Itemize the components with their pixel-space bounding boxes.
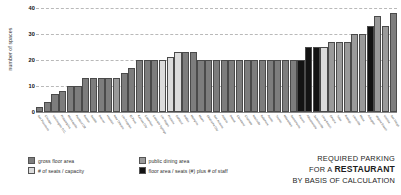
bar — [336, 42, 343, 112]
x-label: Washington D.C. — [51, 113, 58, 151]
legend-item-0: gross floor area — [28, 157, 133, 164]
legend-swatch-icon — [28, 167, 35, 174]
x-label: Wichita — [382, 113, 389, 151]
bar — [98, 78, 105, 112]
bar — [167, 57, 174, 112]
x-label: Detroit — [228, 113, 235, 151]
x-label: Columbus — [144, 113, 151, 151]
x-label: Phoenix — [167, 113, 174, 151]
x-label: San Francisco — [36, 113, 43, 151]
x-label: Charlotte — [244, 113, 251, 151]
bar — [128, 68, 135, 112]
x-label: Las Vegas — [159, 113, 166, 151]
x-label: Kansas City — [136, 113, 143, 151]
bar-series — [36, 8, 397, 112]
x-label: Arlington — [367, 113, 374, 151]
legend-label: floor area / seats (#) plus # of staff — [149, 168, 228, 174]
chart-figure: number of spaces 010203040 San Francisco… — [0, 0, 401, 195]
x-label: Virginia Beach — [374, 113, 381, 151]
bar — [82, 78, 89, 112]
x-axis-labels: San FranciscoChicagoWashington D.C.Phila… — [36, 113, 397, 151]
bar — [320, 47, 327, 112]
x-label: Long Beach — [320, 113, 327, 151]
y-tick-0: 0 — [32, 109, 35, 115]
bar — [182, 52, 189, 112]
legend-label: public dining area — [149, 158, 190, 164]
bar — [236, 60, 243, 112]
bar — [282, 60, 289, 112]
bar — [190, 52, 197, 112]
legend-label: # of seats / capacity — [38, 168, 84, 174]
y-tick-40: 40 — [28, 5, 35, 11]
x-label: Philadelphia — [59, 113, 66, 151]
bar — [367, 26, 374, 112]
x-label: Louisville — [351, 113, 358, 151]
x-label: Tulsa — [336, 113, 343, 151]
x-label: Dallas — [182, 113, 189, 151]
chart-caption: REQUIRED PARKING FOR A RESTAURANT BY BAS… — [235, 154, 395, 186]
x-label: Milwaukee — [282, 113, 289, 151]
x-label: Albuquerque — [305, 113, 312, 151]
bar — [113, 78, 120, 112]
bar — [67, 86, 74, 112]
caption-prefix: FOR A — [309, 165, 334, 174]
legend-swatch-icon — [28, 157, 35, 164]
bar — [344, 42, 351, 112]
x-label: New Orleans — [113, 113, 120, 151]
x-label: San Antonio — [213, 113, 220, 151]
x-label: San Diego — [390, 113, 397, 151]
x-label-text: Tulsa — [336, 114, 343, 122]
bar — [228, 60, 235, 112]
caption-line-3: BY BASIS OF CALCULATION — [235, 176, 395, 186]
legend-label: gross floor area — [38, 158, 74, 164]
legend-item-2: # of seats / capacity — [28, 167, 133, 174]
bar — [59, 91, 66, 112]
x-label: Atlanta — [221, 113, 228, 151]
x-label: Oakland — [174, 113, 181, 151]
x-label: Minneapolis — [67, 113, 74, 151]
x-label: Sacramento — [290, 113, 297, 151]
bar — [359, 34, 366, 112]
bar — [351, 34, 358, 112]
bar — [259, 60, 266, 112]
bar — [36, 107, 43, 112]
bar — [328, 42, 335, 112]
x-label: Raleigh — [344, 113, 351, 151]
x-label: Jacksonville — [313, 113, 320, 151]
x-label: Chicago — [44, 113, 51, 151]
x-label: El Paso — [128, 113, 135, 151]
y-axis-ticks: 010203040 — [14, 8, 35, 112]
bar — [144, 60, 151, 112]
bar — [74, 86, 81, 112]
bar — [390, 13, 397, 112]
caption-subject: RESTAURANT — [334, 164, 395, 174]
x-label: Austin — [267, 113, 274, 151]
x-label: Colorado Springs — [151, 113, 158, 151]
bar — [290, 60, 297, 112]
y-tick-30: 30 — [28, 31, 35, 37]
bar — [159, 60, 166, 112]
bar — [90, 78, 97, 112]
bar — [44, 102, 51, 112]
bar — [267, 60, 274, 112]
legend-swatch-icon — [139, 157, 146, 164]
bar — [151, 60, 158, 112]
bar — [297, 60, 304, 112]
x-label: Houston — [105, 113, 112, 151]
x-label: Nashville — [251, 113, 258, 151]
bar — [105, 78, 112, 112]
bar — [51, 94, 58, 112]
bar — [313, 47, 320, 112]
x-label: Cleveland — [236, 113, 243, 151]
legend-item-1: public dining area — [139, 157, 244, 164]
legend: gross floor areapublic dining area# of s… — [28, 157, 243, 174]
bar — [374, 16, 381, 112]
bar — [244, 60, 251, 112]
x-label: Miami — [197, 113, 204, 151]
x-label: Oklahoma City — [205, 113, 212, 151]
legend-swatch-icon — [139, 167, 146, 174]
x-label: Boston — [82, 113, 89, 151]
x-label: Los Angeles — [121, 113, 128, 151]
bar — [197, 60, 204, 112]
x-label: Portland OR — [74, 113, 81, 151]
